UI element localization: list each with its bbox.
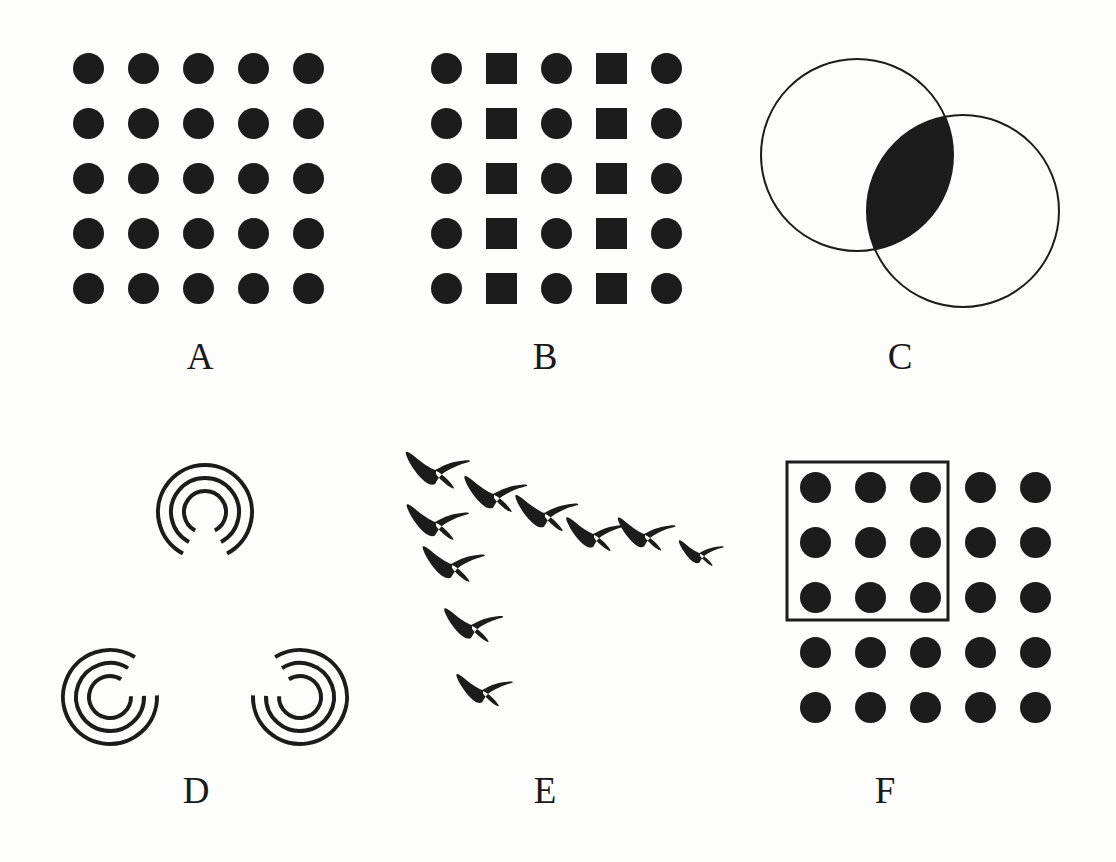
panel-f-frame-layer [0, 0, 1116, 862]
grouping-frame-rectangle [787, 462, 948, 620]
panel-f-label: F [855, 772, 915, 809]
gestalt-figure: A B C D E F [0, 0, 1116, 862]
